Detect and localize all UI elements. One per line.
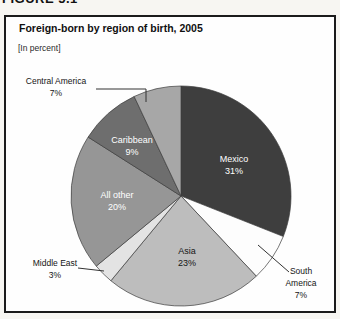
slice-label-percent: 20% (100, 201, 133, 213)
figure-page: FIGURE 5.1 Foreign-born by region of bir… (0, 0, 340, 319)
slice-label-asia: Asia23% (178, 246, 196, 269)
slice-label-south-america: South America7% (276, 265, 326, 301)
slice-label-name: Asia (178, 246, 196, 258)
slice-label-name: Middle East (22, 257, 88, 269)
slice-label-caribbean: Caribbean9% (111, 135, 153, 158)
slice-label-percent: 7% (13, 87, 99, 99)
slice-label-percent: 31% (220, 165, 249, 177)
slice-label-name: Mexico (220, 154, 249, 166)
slice-label-all-other: All other20% (100, 190, 133, 213)
slice-label-middle-east: Middle East3% (22, 257, 88, 281)
slice-label-name: Central America (13, 75, 99, 87)
slice-label-name: Caribbean (111, 135, 153, 147)
slice-label-percent: 3% (22, 269, 88, 281)
slice-label-name: All other (100, 190, 133, 202)
slice-label-percent: 7% (276, 289, 326, 301)
slice-label-central-america: Central America7% (13, 75, 99, 99)
slice-label-name: South America (276, 265, 326, 289)
slice-label-mexico: Mexico31% (220, 154, 249, 177)
slice-label-percent: 23% (178, 257, 196, 269)
slice-label-percent: 9% (111, 146, 153, 158)
